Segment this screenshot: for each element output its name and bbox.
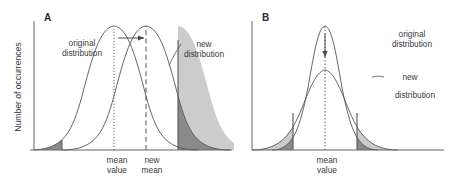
panel-b-original-label-line1: original (399, 29, 426, 39)
panel-b-mean-value-label-line2: value (317, 165, 337, 175)
panel-a-mean-value-label-line1: mean (107, 155, 128, 165)
panel-b-new-label-line1: new (402, 72, 417, 82)
panel-b-original-label-line2: distribution (392, 39, 432, 49)
panel-a (30, 21, 262, 150)
panel-a-new-mean-label-line1: new (144, 155, 159, 165)
panel-a-new-mean-label-line2: mean (142, 165, 163, 175)
panel-b-new-label-leader (372, 76, 384, 77)
panel-b-new-label-line2: distribution (395, 90, 435, 100)
panel-a-new-label-line1: new (196, 39, 211, 49)
panel-a-new-label-line2: distribution (184, 49, 224, 59)
panel-a-letter: A (44, 12, 51, 23)
panel-b-mean-value-label-line1: mean (317, 155, 338, 165)
panel-a-original-label-line1: original (69, 38, 96, 48)
panel-b-letter: B (262, 12, 269, 23)
panel-a-original-label-line2: distribution (62, 48, 102, 58)
panel-a-mean-value-label-line2: value (107, 165, 127, 175)
figure-distribution-shift: Number of occurrences (0, 0, 467, 192)
